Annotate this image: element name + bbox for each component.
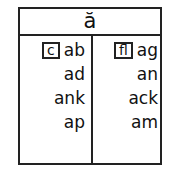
word-ending: an (137, 66, 158, 83)
phonics-chart: ă c ab ad ank ap fl ag an ack am (18, 7, 162, 165)
list-item: ack (93, 86, 163, 110)
word-ending: ack (128, 90, 158, 107)
list-item: fl ag (93, 38, 163, 62)
prefix-tag: c (42, 42, 60, 59)
list-item: ad (20, 62, 90, 86)
prefix-tag: fl (114, 42, 133, 59)
word-ending: ap (64, 114, 85, 131)
list-item: ank (20, 86, 90, 110)
word-ending: am (131, 114, 158, 131)
word-ending: ank (54, 90, 85, 107)
list-item: an (93, 62, 163, 86)
header-title: ă (84, 11, 97, 32)
list-item: c ab (20, 38, 90, 62)
chart-header: ă (20, 9, 160, 36)
list-item: ap (20, 110, 90, 134)
word-ending: ag (137, 42, 158, 59)
left-column: c ab ad ank ap (20, 38, 90, 134)
list-item: am (93, 110, 163, 134)
right-column: fl ag an ack am (93, 38, 163, 134)
word-ending: ad (64, 66, 85, 83)
word-ending: ab (64, 42, 85, 59)
